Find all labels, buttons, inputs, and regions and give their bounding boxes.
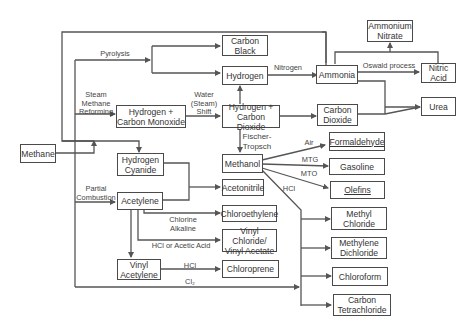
node-acetonitrile: Acetonitrile bbox=[222, 179, 264, 196]
label-oswald-process: Oswald process bbox=[362, 62, 416, 71]
node-ammonia: Ammonia bbox=[316, 65, 358, 84]
node-nitric-acid: Nitric Acid bbox=[421, 63, 456, 83]
node-methanol: Methanol bbox=[222, 154, 263, 173]
methane-derivatives-flow-diagram: Methane Carbon Black Hydrogen Hydrogen +… bbox=[0, 0, 476, 326]
label-hcl-vinyl: HCl bbox=[183, 262, 197, 271]
node-chloroform: Chloroform bbox=[332, 267, 388, 286]
label-partial-combustion: Partial Combustion bbox=[76, 185, 116, 202]
label-cl2: Cl₂ bbox=[183, 278, 197, 287]
node-hydrogen: Hydrogen bbox=[222, 66, 268, 85]
node-vinyl-acetylene: Vinyl Acetylene bbox=[117, 259, 161, 280]
node-ammonium-nitrate: Ammonium Nitrate bbox=[367, 20, 413, 42]
label-air: Air bbox=[302, 139, 316, 148]
node-chloroethylene: Chloroethylene bbox=[222, 205, 277, 222]
label-nitrogen: Nitrogen bbox=[270, 64, 306, 73]
node-chloroprene: Chloroprene bbox=[222, 260, 279, 278]
label-hcl-or-acetic-acid: HCl or Acetic Acid bbox=[150, 242, 212, 251]
label-pyrolysis: Pyrolysis bbox=[98, 50, 132, 59]
node-carbon-tetrachloride: Carbon Tetrachloride bbox=[333, 294, 391, 316]
label-water-steam-shift: Water (Steam) Shift bbox=[188, 91, 220, 117]
node-hydrogen-carbon-dioxide: Hydrogen + Carbon Dioxide bbox=[222, 105, 280, 128]
node-methyl-chloride: Methyl Chloride bbox=[331, 207, 387, 230]
node-hydrogen-carbon-monoxide: Hydrogen + Carbon Monoxide bbox=[116, 105, 186, 128]
node-acetylene: Acetylene bbox=[117, 192, 163, 210]
node-carbon-dioxide: Carbon Dioxide bbox=[317, 104, 358, 126]
label-fischer-tropsch: Fischer- Tropsch bbox=[240, 132, 274, 152]
node-hydrogen-cyanide: Hydrogen Cyanide bbox=[117, 153, 164, 176]
node-vinyl-chloride-vinyl-acetate: Vinyl Chloride/ Vinyl Acetate bbox=[222, 229, 277, 252]
node-carbon-black: Carbon Black bbox=[222, 35, 268, 56]
label-steam-methane-reforming: Steam Methane Reforming bbox=[78, 91, 114, 117]
node-gasoline: Gasoline bbox=[329, 158, 385, 175]
node-methylene-dichloride: Methylene Dichloride bbox=[331, 237, 387, 259]
node-methane: Methane bbox=[20, 144, 56, 163]
label-mto: MTO bbox=[300, 170, 318, 179]
node-urea: Urea bbox=[421, 97, 456, 116]
label-chlorine-alkaline: Chlorine Alkaline bbox=[168, 216, 198, 233]
label-mtg: MTG bbox=[301, 156, 319, 165]
node-formaldehyde: Formaldehyde bbox=[329, 132, 385, 151]
label-hcl-methanol: HCl bbox=[282, 185, 296, 194]
node-olefins: Olefins bbox=[330, 181, 385, 199]
